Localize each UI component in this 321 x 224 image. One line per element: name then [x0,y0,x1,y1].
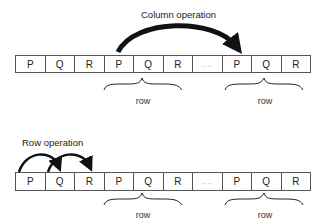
cell: P [105,56,135,72]
cell: P [223,173,253,190]
cell: P [16,173,46,190]
column-operation-title: Column operation [141,9,216,20]
row-brace-label: row [136,210,151,220]
cell: Q [252,173,282,190]
cell: R [75,56,105,72]
row-brace [104,193,182,205]
cell: R [164,173,194,190]
row-brace-label: row [258,210,273,220]
cell: Q [46,173,76,190]
cell: R [282,56,311,72]
row-brace [225,193,303,205]
cell: P [16,56,46,72]
cell: Q [134,173,164,190]
row-operation-title: Row operation [22,137,83,148]
column-cell-strip: P Q R P Q R .... P Q R [15,55,311,73]
row-cell-strip: P Q R P Q R .... P Q R [15,172,311,191]
cell: R [282,173,311,190]
cell: Q [252,56,282,72]
row-brace [225,78,303,90]
cell: R [75,173,105,190]
column-operation-arrow [118,26,236,52]
cell: P [223,56,253,72]
row-brace-label: row [136,96,151,106]
row-brace [104,78,182,90]
row-operation-arrow-2 [48,155,89,172]
cell: Q [134,56,164,72]
ellipsis-cell: .... [193,173,223,190]
cell: Q [46,56,76,72]
cell: R [164,56,194,72]
cell: P [105,173,135,190]
ellipsis-cell: .... [193,56,223,72]
row-brace-label: row [258,96,273,106]
